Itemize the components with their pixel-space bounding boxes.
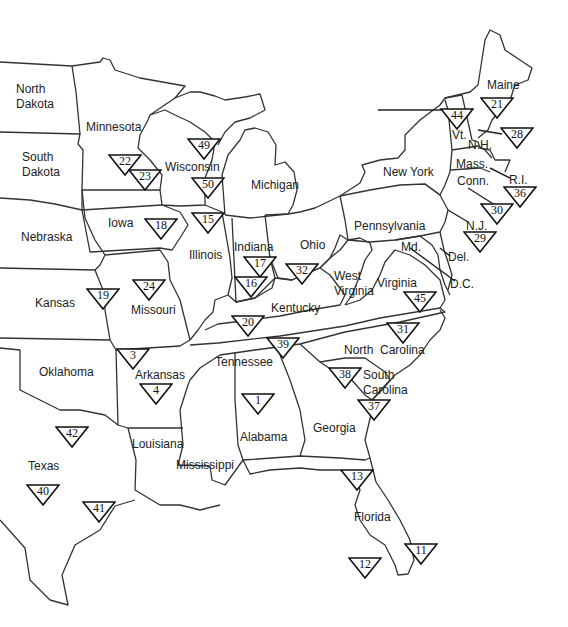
triangle-marker-16: 16 bbox=[234, 276, 268, 298]
triangle-marker-17: 17 bbox=[243, 256, 277, 278]
marker-number: 28 bbox=[500, 128, 534, 140]
marker-number: 1 bbox=[241, 394, 275, 406]
marker-number: 22 bbox=[108, 155, 142, 167]
marker-number: 16 bbox=[234, 277, 268, 289]
marker-number: 23 bbox=[128, 170, 162, 182]
state-label-oklahoma: Oklahoma bbox=[39, 365, 94, 380]
triangle-marker-41: 41 bbox=[82, 501, 116, 523]
state-label-georgia: Georgia bbox=[313, 421, 356, 436]
triangle-marker-42: 42 bbox=[55, 426, 89, 448]
us-eastern-map: North DakotaSouth DakotaMinnesotaWiscons… bbox=[0, 0, 568, 627]
state-label-massachusetts: Mass. bbox=[456, 157, 488, 172]
marker-number: 36 bbox=[503, 187, 537, 199]
marker-number: 4 bbox=[139, 384, 173, 396]
state-label-south-dakota: South Dakota bbox=[22, 150, 60, 180]
marker-number: 24 bbox=[132, 280, 166, 292]
marker-number: 49 bbox=[187, 139, 221, 151]
triangle-marker-11: 11 bbox=[404, 543, 438, 565]
triangle-marker-24: 24 bbox=[132, 279, 166, 301]
state-label-north-carolina: North Carolina bbox=[344, 343, 425, 358]
triangle-marker-31: 31 bbox=[386, 322, 420, 344]
state-label-west-virginia: West Virginia bbox=[334, 269, 374, 299]
marker-number: 21 bbox=[480, 98, 514, 110]
state-label-kansas: Kansas bbox=[35, 296, 75, 311]
state-label-pennsylvania: Pennsylvania bbox=[354, 219, 425, 234]
marker-number: 42 bbox=[55, 427, 89, 439]
triangle-marker-1: 1 bbox=[241, 393, 275, 415]
state-label-iowa: Iowa bbox=[108, 216, 133, 231]
marker-number: 13 bbox=[340, 470, 374, 482]
state-label-vermont: Vt. bbox=[452, 128, 467, 143]
state-label-alabama: Alabama bbox=[240, 430, 287, 445]
state-label-michigan: Michigan bbox=[251, 178, 299, 193]
state-label-new-hampshire: N.H. bbox=[468, 138, 492, 153]
marker-number: 41 bbox=[82, 502, 116, 514]
triangle-marker-37: 37 bbox=[357, 399, 391, 421]
marker-number: 29 bbox=[463, 232, 497, 244]
triangle-marker-21: 21 bbox=[480, 97, 514, 119]
triangle-marker-23: 23 bbox=[128, 169, 162, 191]
marker-number: 3 bbox=[116, 349, 150, 361]
state-label-kentucky: Kentucky bbox=[271, 301, 320, 316]
triangle-marker-12: 12 bbox=[348, 557, 382, 579]
state-label-missouri: Missouri bbox=[131, 303, 176, 318]
triangle-marker-20: 20 bbox=[231, 315, 265, 337]
triangle-marker-28: 28 bbox=[500, 127, 534, 149]
marker-number: 40 bbox=[26, 485, 60, 497]
state-label-dc: D.C. bbox=[450, 277, 474, 292]
triangle-marker-39: 39 bbox=[266, 337, 300, 359]
triangle-marker-13: 13 bbox=[340, 469, 374, 491]
marker-number: 17 bbox=[243, 257, 277, 269]
triangle-marker-19: 19 bbox=[86, 288, 120, 310]
marker-number: 39 bbox=[266, 338, 300, 350]
marker-number: 31 bbox=[386, 323, 420, 335]
marker-number: 45 bbox=[403, 292, 437, 304]
state-label-ohio: Ohio bbox=[300, 238, 325, 253]
state-label-illinois: Illinois bbox=[189, 248, 222, 263]
state-label-connecticut: Conn. bbox=[457, 174, 489, 189]
triangle-marker-44: 44 bbox=[440, 108, 474, 130]
state-label-north-dakota: North Dakota bbox=[16, 82, 54, 112]
triangle-marker-50: 50 bbox=[191, 177, 225, 199]
marker-number: 32 bbox=[285, 264, 319, 276]
state-label-tennessee: Tennessee bbox=[215, 355, 273, 370]
state-label-maryland: Md. bbox=[401, 240, 421, 255]
triangle-marker-29: 29 bbox=[463, 231, 497, 253]
marker-number: 12 bbox=[348, 558, 382, 570]
state-label-new-york: New York bbox=[383, 165, 434, 180]
triangle-marker-49: 49 bbox=[187, 138, 221, 160]
marker-number: 15 bbox=[191, 213, 225, 225]
marker-number: 11 bbox=[404, 544, 438, 556]
state-label-texas: Texas bbox=[28, 459, 59, 474]
state-label-minnesota: Minnesota bbox=[86, 120, 141, 135]
triangle-marker-4: 4 bbox=[139, 383, 173, 405]
marker-number: 19 bbox=[86, 289, 120, 301]
marker-number: 38 bbox=[328, 368, 362, 380]
state-label-indiana: Indiana bbox=[234, 240, 273, 255]
triangle-marker-3: 3 bbox=[116, 348, 150, 370]
state-label-arkansas: Arkansas bbox=[135, 368, 185, 383]
state-label-wisconsin: Wisconsin bbox=[165, 160, 220, 175]
state-label-south-carolina: South Carolina bbox=[363, 368, 408, 398]
marker-number: 44 bbox=[440, 109, 474, 121]
marker-number: 20 bbox=[231, 316, 265, 328]
state-label-maine: Maine bbox=[487, 78, 520, 93]
state-label-virginia: Virginia bbox=[377, 276, 417, 291]
triangle-marker-18: 18 bbox=[144, 218, 178, 240]
marker-number: 50 bbox=[191, 178, 225, 190]
triangle-marker-15: 15 bbox=[191, 212, 225, 234]
triangle-marker-36: 36 bbox=[503, 186, 537, 208]
marker-number: 37 bbox=[357, 400, 391, 412]
triangle-marker-38: 38 bbox=[328, 367, 362, 389]
triangle-marker-45: 45 bbox=[403, 291, 437, 313]
state-label-nebraska: Nebraska bbox=[21, 230, 72, 245]
triangle-marker-40: 40 bbox=[26, 484, 60, 506]
state-label-florida: Florida bbox=[354, 510, 391, 525]
state-label-mississippi: Mississippi bbox=[176, 458, 234, 473]
triangle-marker-32: 32 bbox=[285, 263, 319, 285]
marker-number: 18 bbox=[144, 219, 178, 231]
state-label-louisiana: Louisiana bbox=[132, 437, 183, 452]
